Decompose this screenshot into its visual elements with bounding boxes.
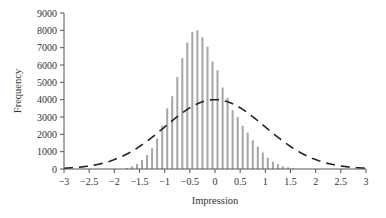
- y-tick-label: 5000: [37, 77, 57, 88]
- histogram-bar: [186, 43, 188, 170]
- x-tick-label: −2.5: [80, 176, 98, 187]
- x-axis-title: Impression: [192, 195, 239, 206]
- histogram-bar: [252, 140, 254, 169]
- x-axis-ticks: −3−2.5−2−1.5−1−0.500.511.522.53: [59, 169, 369, 187]
- y-tick-label: 0: [52, 164, 57, 175]
- histogram-bar: [196, 30, 198, 169]
- x-tick-label: 1.5: [284, 176, 297, 187]
- y-axis-ticks: 0100020003000400050006000700080009000: [37, 8, 64, 175]
- histogram-bar: [272, 162, 274, 169]
- x-tick-label: 2: [313, 176, 318, 187]
- x-tick-label: 2.5: [335, 176, 348, 187]
- histogram-bar: [207, 47, 209, 169]
- x-tick-label: 1: [263, 176, 268, 187]
- histogram-bar: [247, 133, 249, 169]
- x-tick-label: −1.5: [130, 176, 148, 187]
- histogram-chart: 0100020003000400050006000700080009000 −3…: [0, 0, 386, 218]
- histogram-bar: [176, 77, 178, 169]
- histogram-bar: [277, 164, 279, 169]
- y-tick-label: 3000: [37, 112, 57, 123]
- histogram-bar: [222, 88, 224, 170]
- histogram-bar: [267, 158, 269, 169]
- histogram-bar: [262, 153, 264, 170]
- y-tick-label: 9000: [37, 8, 57, 19]
- y-axis-title: Frequency: [12, 68, 23, 113]
- histogram-bar: [136, 164, 138, 169]
- histogram-bar: [141, 160, 143, 169]
- histogram-bar: [201, 37, 203, 169]
- normal-curve: [64, 100, 366, 169]
- y-tick-label: 2000: [37, 129, 57, 140]
- y-tick-label: 1000: [37, 146, 57, 157]
- histogram-bar: [227, 98, 229, 169]
- histogram-bar: [171, 96, 173, 169]
- histogram-bar: [237, 117, 239, 169]
- histogram-bar: [166, 108, 168, 169]
- y-tick-label: 7000: [37, 42, 57, 53]
- x-tick-label: 0: [213, 176, 218, 187]
- histogram-bar: [191, 32, 193, 169]
- histogram-bar: [146, 155, 148, 169]
- x-tick-label: 3: [364, 176, 369, 187]
- y-tick-label: 4000: [37, 94, 57, 105]
- y-tick-label: 8000: [37, 25, 57, 36]
- histogram-bar: [217, 70, 219, 169]
- x-tick-label: −1: [159, 176, 170, 187]
- x-tick-label: −3: [59, 176, 70, 187]
- histogram-bar: [156, 139, 158, 169]
- histogram-bar: [257, 147, 259, 170]
- histogram-bar: [161, 126, 163, 169]
- histogram-bar: [181, 58, 183, 169]
- histogram-bar: [151, 148, 153, 169]
- y-tick-label: 6000: [37, 60, 57, 71]
- x-tick-label: −0.5: [181, 176, 199, 187]
- histogram-bar: [242, 126, 244, 169]
- x-tick-label: −2: [109, 176, 120, 187]
- histogram-bar: [212, 62, 214, 170]
- x-tick-label: 0.5: [234, 176, 247, 187]
- histogram-bar: [232, 110, 234, 169]
